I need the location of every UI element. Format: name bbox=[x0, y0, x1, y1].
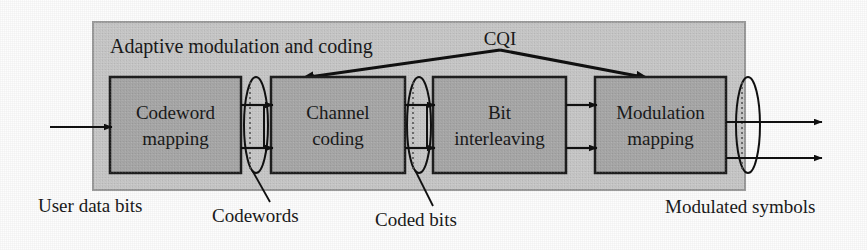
block-bit-interleaving-texture bbox=[433, 77, 566, 173]
block-codeword-mapping-line2: mapping bbox=[142, 128, 209, 149]
block-modulation-mapping[interactable]: Modulation mapping bbox=[595, 77, 726, 173]
diagram-canvas: Adaptive modulation and coding CQI Codew… bbox=[0, 0, 867, 250]
block-channel-coding-line1: Channel bbox=[306, 102, 369, 123]
block-bit-interleaving[interactable]: Bit interleaving bbox=[433, 77, 566, 173]
block-codeword-mapping-line1: Codeword bbox=[136, 102, 216, 123]
block-codeword-mapping[interactable]: Codeword mapping bbox=[110, 77, 241, 173]
label-user-data-bits: User data bits bbox=[38, 195, 142, 216]
block-channel-coding-line2: coding bbox=[312, 128, 364, 149]
block-diagram-figure: Adaptive modulation and coding CQI Codew… bbox=[0, 0, 867, 250]
block-modulation-mapping-texture bbox=[595, 77, 726, 173]
block-codeword-mapping-texture bbox=[110, 77, 241, 173]
label-modulated-symbols: Modulated symbols bbox=[665, 196, 815, 217]
block-channel-coding-texture bbox=[271, 77, 405, 173]
block-modulation-mapping-line2: mapping bbox=[627, 128, 694, 149]
container-title: Adaptive modulation and coding bbox=[110, 35, 373, 58]
label-codewords: Codewords bbox=[212, 205, 299, 226]
block-channel-coding[interactable]: Channel coding bbox=[271, 77, 405, 173]
block-bit-interleaving-line2: interleaving bbox=[454, 128, 545, 149]
cqi-label: CQI bbox=[484, 28, 517, 49]
block-modulation-mapping-line1: Modulation bbox=[616, 102, 705, 123]
label-coded-bits: Coded bits bbox=[375, 209, 457, 230]
external-labels: User data bits Codewords Coded bits Modu… bbox=[38, 195, 815, 230]
block-bit-interleaving-line1: Bit bbox=[488, 102, 512, 123]
